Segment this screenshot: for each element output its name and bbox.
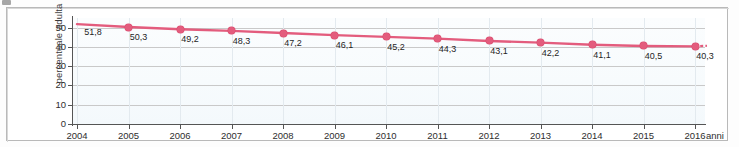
y-tick-mark xyxy=(68,28,72,29)
x-tick-label: 2010 xyxy=(365,130,407,141)
data-point-label: 49,2 xyxy=(181,34,199,44)
data-point-marker xyxy=(589,41,596,48)
x-tick-label: 2008 xyxy=(262,130,304,141)
data-point-marker xyxy=(125,24,132,31)
data-point-label: 40,3 xyxy=(696,51,714,61)
x-tick-mark xyxy=(438,125,439,129)
data-point-label: 43,1 xyxy=(490,46,508,56)
x-tick-mark xyxy=(335,125,336,129)
x-tick-mark xyxy=(283,125,284,129)
x-tick-mark xyxy=(386,125,387,129)
x-tick-label: 2011 xyxy=(417,130,459,141)
data-point-marker xyxy=(383,33,390,40)
data-point-label: 45,2 xyxy=(387,42,405,52)
y-tick-label-wrapper: 50 xyxy=(40,28,66,40)
data-point-label: 50,3 xyxy=(130,32,148,42)
data-point-marker xyxy=(692,43,699,50)
x-tick-mark xyxy=(77,125,78,129)
x-tick-label: 2009 xyxy=(314,130,356,141)
y-tick-mark xyxy=(68,47,72,48)
x-tick-mark xyxy=(232,125,233,129)
data-point-label: 47,2 xyxy=(284,38,302,48)
y-tick-mark xyxy=(68,66,72,67)
chart-figure: percentuale adulta 01020304050 200420052… xyxy=(0,0,739,147)
x-tick-mark xyxy=(541,125,542,129)
x-tick-label: 2012 xyxy=(468,130,510,141)
x-tick-label: 2004 xyxy=(56,130,98,141)
data-point-label: 41,1 xyxy=(593,50,611,60)
x-tick-mark xyxy=(695,125,696,129)
y-tick-label: 50 xyxy=(42,22,66,33)
x-tick-label: 2014 xyxy=(571,130,613,141)
x-axis-title: anni xyxy=(706,130,724,141)
x-tick-mark xyxy=(644,125,645,129)
x-tick-label: 2006 xyxy=(159,130,201,141)
x-tick-label: 2015 xyxy=(623,130,665,141)
y-tick-label: 30 xyxy=(42,60,66,71)
x-tick-mark xyxy=(180,125,181,129)
y-tick-label-wrapper: 30 xyxy=(40,66,66,78)
y-tick-label: 10 xyxy=(42,99,66,110)
y-tick-label-wrapper: 10 xyxy=(40,105,66,117)
data-point-label: 40,5 xyxy=(645,51,663,61)
y-tick-label: 40 xyxy=(42,41,66,52)
x-tick-mark xyxy=(129,125,130,129)
y-tick-label-wrapper: 20 xyxy=(40,85,66,97)
x-tick-label: 2007 xyxy=(211,130,253,141)
data-point-label: 48,3 xyxy=(233,36,251,46)
data-point-marker xyxy=(486,37,493,44)
data-point-label: 46,1 xyxy=(336,40,354,50)
x-axis-line xyxy=(72,124,706,125)
data-point-label: 42,2 xyxy=(542,48,560,58)
data-point-label: 44,3 xyxy=(439,44,457,54)
scan-artifact xyxy=(2,0,11,5)
y-tick-mark xyxy=(68,105,72,106)
y-tick-mark xyxy=(68,124,72,125)
data-point-marker xyxy=(177,26,184,33)
y-tick-label-wrapper: 40 xyxy=(40,47,66,59)
x-tick-mark xyxy=(592,125,593,129)
data-point-marker xyxy=(280,30,287,37)
x-tick-label: 2005 xyxy=(108,130,150,141)
y-tick-mark xyxy=(68,85,72,86)
y-tick-label: 20 xyxy=(42,79,66,90)
x-tick-mark xyxy=(489,125,490,129)
y-tick-label: 0 xyxy=(42,118,66,129)
data-point-label: 51,8 xyxy=(84,27,102,37)
data-point-marker xyxy=(331,32,338,39)
x-tick-label: 2013 xyxy=(520,130,562,141)
